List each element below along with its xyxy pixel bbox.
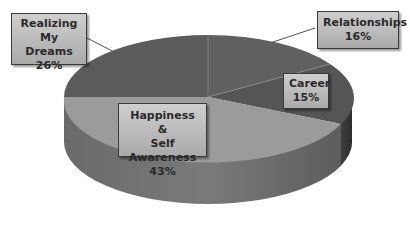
label-text: Self Awareness [124, 137, 201, 165]
label-relationships: Relationships 16% [317, 11, 399, 49]
label-percent: 16% [323, 30, 393, 44]
label-text: Relationships [323, 16, 393, 30]
label-percent: 15% [289, 91, 323, 105]
label-career: Career 15% [283, 73, 329, 109]
label-text: Happiness & [124, 109, 201, 137]
label-text: Career [289, 77, 323, 91]
label-realizing-my-dreams: Realizing My Dreams 26% [11, 13, 87, 65]
label-happiness-self-awareness: Happiness & Self Awareness 43% [118, 103, 207, 157]
label-text: Realizing My [17, 17, 81, 45]
label-text: Dreams [17, 45, 81, 59]
pie-chart: Realizing My Dreams 26% Relationships 16… [0, 0, 410, 227]
leader-line-relationships [270, 28, 315, 43]
leader-line-dreams [87, 38, 118, 54]
label-percent: 43% [124, 165, 201, 179]
label-percent: 26% [17, 59, 81, 73]
